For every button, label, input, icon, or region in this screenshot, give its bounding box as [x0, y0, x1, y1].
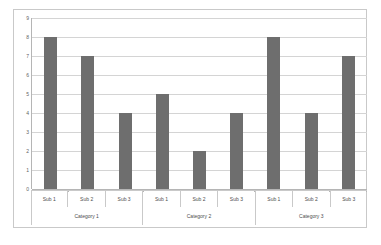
- x-axis-sub-label: Sub 2: [293, 190, 330, 207]
- y-axis-tick-label: 1: [26, 168, 29, 173]
- y-axis-tick-label: 3: [26, 130, 29, 135]
- bar: [267, 37, 280, 189]
- x-axis-sub-label-band: Sub 1Sub 2Sub 3Sub 1Sub 2Sub 3Sub 1Sub 2…: [31, 190, 367, 207]
- y-axis-tick-label: 6: [26, 73, 29, 78]
- bar: [156, 94, 169, 189]
- bar: [119, 113, 132, 189]
- y-axis-tick-label: 4: [26, 111, 29, 116]
- x-axis-sub-label: Sub 2: [181, 190, 218, 207]
- bar: [193, 151, 206, 189]
- bar-series: [32, 18, 367, 189]
- bar: [305, 113, 318, 189]
- x-axis-sub-label: Sub 1: [31, 190, 68, 207]
- chart-frame: 0123456789 Sub 1Sub 2Sub 3Sub 1Sub 2Sub …: [13, 9, 367, 228]
- y-axis-tick-label: 7: [26, 54, 29, 59]
- chart-plot-wrapper: 0123456789 Sub 1Sub 2Sub 3Sub 1Sub 2Sub …: [14, 10, 366, 227]
- y-axis-tick-label: 9: [26, 16, 29, 21]
- x-axis-sub-label: Sub 1: [143, 190, 180, 207]
- x-axis-category-label: Category 3: [256, 207, 367, 225]
- bar: [342, 56, 355, 189]
- x-axis-sub-label: Sub 1: [256, 190, 293, 207]
- x-axis-sub-label: Sub 3: [218, 190, 255, 207]
- y-axis-tick-label: 0: [26, 187, 29, 192]
- y-axis-tick-label: 8: [26, 35, 29, 40]
- bar: [81, 56, 94, 189]
- x-axis-sub-label: Sub 3: [331, 190, 367, 207]
- plot-area: [31, 18, 367, 189]
- bar: [44, 37, 57, 189]
- y-axis-tick-label: 5: [26, 92, 29, 97]
- x-axis-category-label: Category 2: [143, 207, 255, 225]
- x-axis-category-label-band: Category 1Category 2Category 3: [31, 207, 367, 225]
- x-axis-category-label: Category 1: [31, 207, 143, 225]
- x-axis-sub-label: Sub 3: [106, 190, 143, 207]
- bar: [230, 113, 243, 189]
- y-axis: 0123456789: [14, 18, 31, 189]
- y-axis-tick-label: 2: [26, 149, 29, 154]
- x-axis-sub-label: Sub 2: [68, 190, 105, 207]
